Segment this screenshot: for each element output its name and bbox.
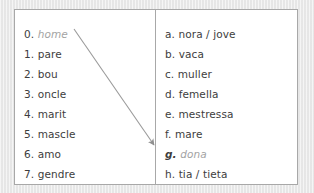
item-term: oncle	[38, 88, 67, 100]
list-item[interactable]: a. nora / jove	[165, 24, 236, 44]
item-marker: d.	[165, 88, 175, 100]
item-marker: b.	[165, 48, 175, 60]
item-term: amo	[38, 148, 61, 160]
item-marker: 7.	[24, 168, 34, 180]
item-term: mascle	[38, 128, 76, 140]
item-term: pare	[38, 48, 62, 60]
item-term: home	[38, 28, 68, 40]
item-term: mare	[175, 128, 203, 140]
lettered-terms-column: a. nora / jove b. vaca c. muller d. feme…	[156, 10, 297, 184]
item-term: muller	[178, 68, 212, 80]
item-marker: 3.	[24, 88, 34, 100]
list-item[interactable]: f. mare	[165, 124, 203, 144]
item-marker: 5.	[24, 128, 34, 140]
page-background: 0. home 1. pare 2. bou 3. oncle 4. marit…	[0, 0, 314, 193]
item-marker: 0.	[24, 28, 34, 40]
list-item[interactable]: 1. pare	[24, 44, 62, 64]
item-marker: e.	[165, 108, 175, 120]
list-item[interactable]: 0. home	[24, 24, 68, 44]
list-item[interactable]: g. dona	[165, 144, 207, 164]
list-item[interactable]: 2. bou	[24, 64, 58, 84]
matching-exercise-card: 0. home 1. pare 2. bou 3. oncle 4. marit…	[14, 9, 298, 185]
item-term: dona	[180, 148, 207, 160]
list-item[interactable]: h. tia / tieta	[165, 164, 227, 184]
item-term: tia / tieta	[179, 168, 228, 180]
item-marker: 1.	[24, 48, 34, 60]
item-term: gendre	[38, 168, 76, 180]
item-term: marit	[38, 108, 67, 120]
list-item[interactable]: b. vaca	[165, 44, 204, 64]
item-term: nora / jove	[178, 28, 235, 40]
list-item[interactable]: 3. oncle	[24, 84, 66, 104]
list-item[interactable]: d. femella	[165, 84, 218, 104]
item-marker: f.	[165, 128, 171, 140]
item-marker: 4.	[24, 108, 34, 120]
item-marker: c.	[165, 68, 174, 80]
item-term: vaca	[179, 48, 204, 60]
item-term: mestressa	[178, 108, 233, 120]
item-marker: a.	[165, 28, 175, 40]
item-marker: 2.	[24, 68, 34, 80]
item-term: femella	[179, 88, 219, 100]
list-item[interactable]: 5. mascle	[24, 124, 76, 144]
item-marker: h.	[165, 168, 175, 180]
list-item[interactable]: e. mestressa	[165, 104, 234, 124]
item-marker: 6.	[24, 148, 34, 160]
list-item[interactable]: 7. gendre	[24, 164, 75, 184]
item-term: bou	[38, 68, 58, 80]
item-marker: g.	[165, 148, 177, 160]
list-item[interactable]: c. muller	[165, 64, 212, 84]
list-item[interactable]: 4. marit	[24, 104, 66, 124]
list-item[interactable]: 6. amo	[24, 144, 61, 164]
numbered-terms-column: 0. home 1. pare 2. bou 3. oncle 4. marit…	[15, 10, 155, 184]
